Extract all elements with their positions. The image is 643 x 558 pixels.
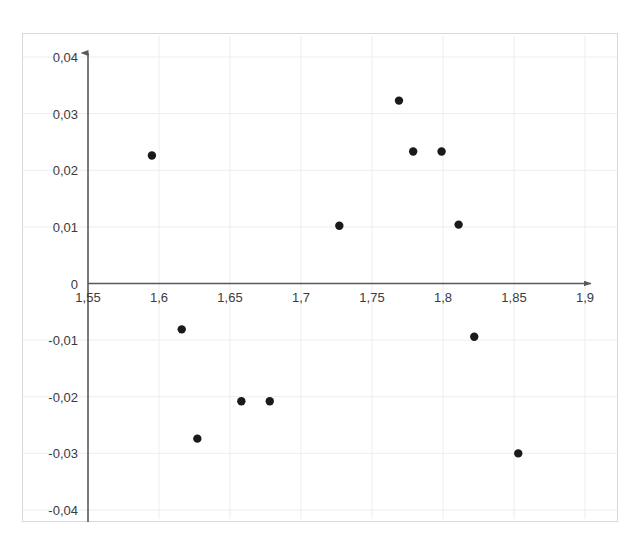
data-point [437,147,445,155]
y-tick-label: -0,01 [48,333,78,348]
y-tick-label: 0,03 [53,107,78,122]
data-point [148,151,156,159]
x-tick-label: 1,7 [292,290,310,305]
data-point [409,147,417,155]
data-point [514,449,522,457]
plot-canvas: 0,040,030,020,010-0,01-0,02-0,03-0,04 1,… [0,0,643,558]
x-tick-label: 1,8 [434,290,452,305]
data-point [237,397,245,405]
data-point [454,220,462,228]
data-point [266,397,274,405]
x-tick-label: 1,9 [576,290,594,305]
y-tick-label: -0,04 [48,503,78,518]
x-tick-label: 1,85 [501,290,526,305]
x-tick-label: 1,6 [150,290,168,305]
vertical-gridlines [159,36,585,519]
y-axis-tick-labels: 0,040,030,020,010-0,01-0,02-0,03-0,04 [48,50,78,518]
y-tick-label: -0,02 [48,390,78,405]
data-point [470,333,478,341]
data-point [193,434,201,442]
data-point [178,325,186,333]
x-tick-label: 1,75 [359,290,384,305]
data-point [335,222,343,230]
data-point [395,96,403,104]
y-tick-label: 0,02 [53,163,78,178]
scatter-chart-figure: 0,040,030,020,010-0,01-0,02-0,03-0,04 1,… [0,0,643,558]
y-tick-label: -0,03 [48,446,78,461]
data-point-series [148,96,523,457]
x-tick-label: 1,55 [75,290,100,305]
x-tick-label: 1,65 [217,290,242,305]
x-axis-tick-labels: 1,551,61,651,71,751,81,851,9 [75,290,594,305]
y-tick-label: 0,04 [53,50,78,65]
y-tick-label: 0,01 [53,220,78,235]
